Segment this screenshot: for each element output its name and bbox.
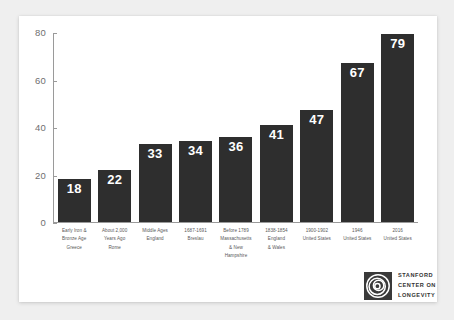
logo-wordmark-line: CENTER ON — [398, 281, 436, 291]
bar[interactable]: 47 — [300, 110, 333, 222]
x-axis-label-line: Bronze Age — [54, 235, 94, 243]
x-axis-category-label: About 2,000Years AgoRome — [95, 227, 135, 252]
x-axis-label-line: Greece — [54, 244, 94, 252]
x-axis-label-line: England — [256, 235, 296, 243]
x-axis-label-line: Massachusetts — [216, 235, 256, 243]
x-axis-label-line: United States — [337, 235, 377, 243]
stanford-center-on-longevity-logo: STANFORDCENTER ONLONGEVITY — [364, 271, 436, 300]
bar-value-label: 36 — [228, 140, 243, 153]
bar[interactable]: 67 — [341, 63, 374, 222]
x-axis-label-line: 1838-1854 — [256, 227, 296, 235]
bar-value-label: 67 — [350, 66, 365, 79]
bar-value-label: 34 — [188, 144, 203, 157]
logo-wordmark-line: LONGEVITY — [398, 291, 436, 301]
x-axis-category-label: Early Iron &Bronze AgeGreece — [54, 227, 94, 252]
x-axis-category-label: Before 1789Massachusetts& NewHampshire — [216, 227, 256, 261]
x-axis-label-line: Breslau — [176, 235, 216, 243]
x-axis-label-line: United States — [378, 235, 418, 243]
x-axis-category-label: 2016United States — [378, 227, 418, 244]
x-axis-category-label: Middle AgesEngland — [135, 227, 175, 244]
x-axis-category-label: 1946United States — [337, 227, 377, 244]
x-axis-label-line: Years Ago — [95, 235, 135, 243]
x-axis-label-line: Before 1789 — [216, 227, 256, 235]
x-axis-label-line: 1687-1691 — [176, 227, 216, 235]
bar[interactable]: 41 — [260, 125, 293, 222]
bar[interactable]: 18 — [58, 179, 91, 222]
x-axis-label-line: Middle Ages — [135, 227, 175, 235]
x-axis-category-label: 1838-1854England& Wales — [256, 227, 296, 252]
bar-column[interactable]: 41 — [260, 33, 293, 222]
bar-value-label: 41 — [269, 128, 284, 141]
y-axis-tick-label: 80 — [35, 27, 46, 38]
bar-value-label: 18 — [67, 182, 82, 195]
x-axis-label-line: Hampshire — [216, 252, 256, 260]
bar-series: 182233343641476779 — [54, 33, 418, 222]
x-axis-label-line: & Wales — [256, 244, 296, 252]
bar-column[interactable]: 67 — [341, 33, 374, 222]
bar-column[interactable]: 33 — [139, 33, 172, 222]
x-axis-label-line: Early Iron & — [54, 227, 94, 235]
bar-column[interactable]: 22 — [98, 33, 131, 222]
x-axis-label-line: About 2,000 — [95, 227, 135, 235]
bar-column[interactable]: 36 — [219, 33, 252, 222]
x-axis-category-label: 1687-1691Breslau — [176, 227, 216, 244]
x-axis-label-line: 2016 — [378, 227, 418, 235]
bar-column[interactable]: 34 — [179, 33, 212, 222]
y-axis-tick-label: 60 — [35, 75, 46, 86]
bar-value-label: 79 — [390, 37, 405, 50]
bar-column[interactable]: 47 — [300, 33, 333, 222]
x-axis-label-line: United States — [297, 235, 337, 243]
x-axis-label-line: 1946 — [337, 227, 377, 235]
chart-card: 020406080 182233343641476779 Early Iron … — [19, 16, 437, 302]
y-axis-tick-label: 40 — [35, 122, 46, 133]
bar-value-label: 47 — [309, 113, 324, 126]
x-axis-label-line: & New — [216, 244, 256, 252]
bar[interactable]: 34 — [179, 141, 212, 222]
bar-column[interactable]: 18 — [58, 33, 91, 222]
plot-area: 020406080 182233343641476779 — [53, 33, 418, 223]
logo-wordmark: STANFORDCENTER ONLONGEVITY — [398, 271, 436, 300]
y-axis-tick-label: 0 — [41, 217, 46, 228]
x-axis-label-line: England — [135, 235, 175, 243]
y-axis-tick-mark — [53, 223, 57, 224]
logo-wordmark-line: STANFORD — [398, 271, 436, 281]
concentric-spiral-logo-icon — [364, 272, 392, 300]
bar[interactable]: 36 — [219, 137, 252, 223]
x-axis-label-line: 1900-1902 — [297, 227, 337, 235]
y-axis-tick-label: 20 — [35, 170, 46, 181]
x-axis-line — [53, 222, 418, 223]
bar[interactable]: 33 — [139, 144, 172, 222]
x-axis-category-label: 1900-1902United States — [297, 227, 337, 244]
bar-value-label: 22 — [107, 173, 122, 186]
bar-column[interactable]: 79 — [381, 33, 414, 222]
bar[interactable]: 79 — [381, 34, 414, 222]
x-axis-label-line: Rome — [95, 244, 135, 252]
bar-value-label: 33 — [148, 147, 163, 160]
bar[interactable]: 22 — [98, 170, 131, 222]
